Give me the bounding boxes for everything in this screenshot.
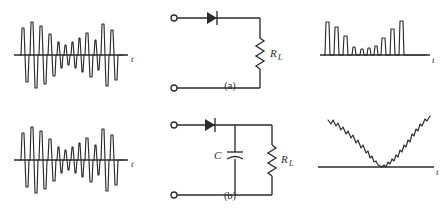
subfigure-caption-b: (b) [150, 190, 310, 201]
subfigure-caption-a: (a) [150, 80, 310, 91]
output-axis-label-b: t [436, 167, 439, 177]
input-waveform-panel-b: t [0, 105, 150, 215]
input-terminal-top[interactable] [171, 15, 177, 21]
output-waveform-panel-b: t [310, 105, 448, 215]
load-resistor [268, 145, 276, 176]
load-resistor-label: R [269, 47, 277, 59]
load-resistor [256, 38, 264, 69]
figure-row-a: t [0, 0, 448, 110]
input-axis-label-a: t [131, 54, 134, 64]
filter-capacitor [227, 152, 243, 159]
input-axis-label-b: t [131, 159, 134, 169]
filter-capacitor-label: C [214, 149, 222, 161]
figure-am-envelope-detector: t [0, 0, 448, 220]
rectified-pulse-output-waveform [324, 21, 426, 55]
output-axis-label-a: t [432, 55, 435, 65]
circuit-panel-a: R L [150, 0, 310, 110]
input-waveform-panel-a: t [0, 0, 150, 110]
load-resistor-sublabel: L [277, 53, 283, 62]
load-resistor-label: R [280, 153, 288, 165]
load-resistor-sublabel: L [288, 159, 294, 168]
diode-symbol [207, 11, 217, 25]
input-terminal-top[interactable] [171, 122, 177, 128]
smoothed-envelope-output-waveform [328, 116, 430, 167]
output-waveform-panel-a: t [310, 0, 448, 110]
diode-symbol [205, 118, 215, 132]
